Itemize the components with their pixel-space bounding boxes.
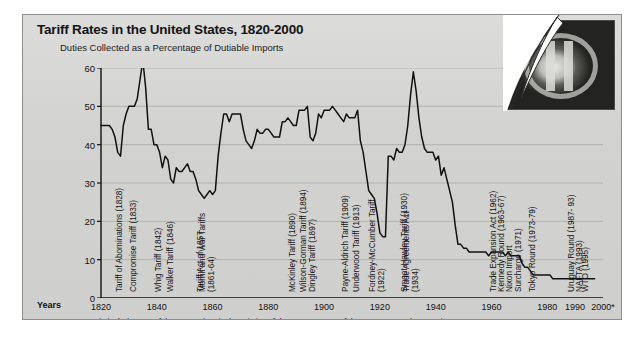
x-axis-tick-label: 2000* xyxy=(591,302,615,312)
x-axis-tick-label: 1840 xyxy=(147,302,167,312)
y-axis-tick-label: 30 xyxy=(69,178,95,189)
chart-page: Tariff Rates in the United States, 1820-… xyxy=(0,0,644,339)
x-axis-tick-label: 1940 xyxy=(426,302,446,312)
annotation-line: (1861-64) xyxy=(207,68,216,292)
y-axis-tick-label: 50 xyxy=(69,101,95,112)
page-curl-icon xyxy=(503,15,621,113)
annotation-line: McKinley Tariff (1890) xyxy=(288,68,298,292)
chart-panel: Tariff Rates in the United States, 1820-… xyxy=(22,14,622,320)
x-axis-tick-label: 1990 xyxy=(565,302,585,312)
x-axis-tick-label: 1820 xyxy=(91,302,111,312)
y-axis-tick-label: 40 xyxy=(69,139,95,150)
x-axis-tick-label: 1960 xyxy=(481,302,501,312)
y-axis-tick-label: 20 xyxy=(69,216,95,227)
annotation-line: Dingley Tariff (1897) xyxy=(307,68,317,292)
annotation-line: Trade Agreements Act xyxy=(402,68,411,292)
x-axis-tick-label: 1880 xyxy=(258,302,278,312)
x-axis-tick-label: 1920 xyxy=(370,302,390,312)
x-axis-tick-label: 1900 xyxy=(314,302,334,312)
annotation-line: Tariff of Abominations (1828) xyxy=(115,68,125,292)
y-axis-tick-label: 60 xyxy=(69,63,95,74)
annotation-line: (1934) xyxy=(411,68,420,292)
sources-italic: Statistical Abstract of the U.S., Histor… xyxy=(84,318,308,320)
dollar-bill-corner xyxy=(503,15,621,113)
annotation-line: Walker Tariff (1846) xyxy=(165,68,175,292)
page-title: Tariff Rates in the United States, 1820-… xyxy=(37,22,303,37)
annotation-line: Underwood Tariff (1913) xyxy=(352,68,362,292)
annotation-line: Morrill and War Tariffs xyxy=(198,68,207,292)
x-axis-tick-label: 1980 xyxy=(537,302,557,312)
chart-subtitle: Duties Collected as a Percentage of Duti… xyxy=(60,42,283,53)
x-axis-title: Years xyxy=(37,300,61,310)
annotation-line: (1922) xyxy=(377,68,386,292)
x-axis-tick-label: 1860 xyxy=(203,302,223,312)
annotation-line: Compromise Tariff (1833) xyxy=(129,68,139,292)
annotation-line: Payne-Aldrich Tariff (1909) xyxy=(341,68,351,292)
annotation-line: Whig Tariff (1842) xyxy=(154,68,164,292)
sources-rest: Bureau of the Census; *Author's estimate xyxy=(309,318,461,320)
sources-footer: Sources:Statistical Abstract of the U.S.… xyxy=(49,318,461,320)
y-axis-tick-label: 10 xyxy=(69,254,95,265)
sources-label: Sources: xyxy=(49,318,84,320)
